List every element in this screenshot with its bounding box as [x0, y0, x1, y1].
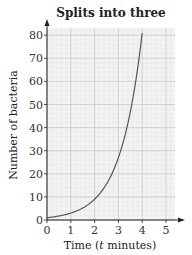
y-axis-label: Number of bacteria	[7, 70, 20, 180]
y-tick-label: 70	[29, 52, 43, 65]
y-tick-label: 40	[29, 122, 43, 135]
x-axis-label: Time (t minutes)	[64, 239, 157, 252]
y-tick-label: 60	[29, 75, 43, 88]
y-tick-label: 50	[29, 99, 43, 112]
y-tick-label: 0	[36, 214, 43, 227]
x-tick-label: 1	[67, 224, 74, 237]
x-tick-label: 3	[115, 224, 122, 237]
x-tick-label: 4	[139, 224, 146, 237]
y-tick-label: 80	[29, 29, 43, 42]
y-tick-label: 30	[29, 145, 43, 158]
y-tick-label: 10	[29, 191, 43, 204]
chart-title: Splits into three	[56, 6, 166, 20]
x-tick-label: 0	[44, 224, 51, 237]
x-tick-label: 5	[163, 224, 170, 237]
y-tick-label: 20	[29, 168, 43, 181]
x-tick-label: 2	[91, 224, 98, 237]
bacteria-growth-chart: 01020304050607080012345 Splits into thre…	[0, 0, 192, 255]
grid	[47, 28, 175, 220]
